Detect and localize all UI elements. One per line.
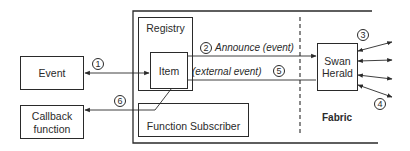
step-marker-6: 6 <box>114 95 126 107</box>
item-label: Item <box>151 65 187 77</box>
registry-label: Registry <box>139 22 192 34</box>
callback-function-box: Callback function <box>20 105 84 139</box>
callback-label-line1: Callback <box>21 110 83 122</box>
announce-edge-label: Announce (event) <box>215 42 294 54</box>
swan-herald-box: Swan Herald <box>317 43 358 91</box>
step-marker-4: 4 <box>374 98 386 110</box>
step-marker-1: 1 <box>92 58 104 70</box>
swan-herald-line1: Swan <box>318 55 357 67</box>
external-event-edge-label: (external event) <box>192 66 261 78</box>
item-box: Item <box>150 52 188 89</box>
fabric-label: Fabric <box>322 112 352 124</box>
step-marker-5: 5 <box>273 65 285 77</box>
function-subscriber-box: Function Subscriber <box>138 103 249 137</box>
step-marker-2: 2 <box>200 42 212 54</box>
event-box: Event <box>20 56 84 90</box>
step-marker-3: 3 <box>357 29 369 41</box>
event-label: Event <box>21 67 83 79</box>
swan-herald-line2: Herald <box>318 67 357 79</box>
callback-label-line2: function <box>21 123 83 135</box>
function-subscriber-label: Function Subscriber <box>139 120 248 132</box>
architecture-diagram: Event Callback function Registry Item Fu… <box>0 0 410 151</box>
